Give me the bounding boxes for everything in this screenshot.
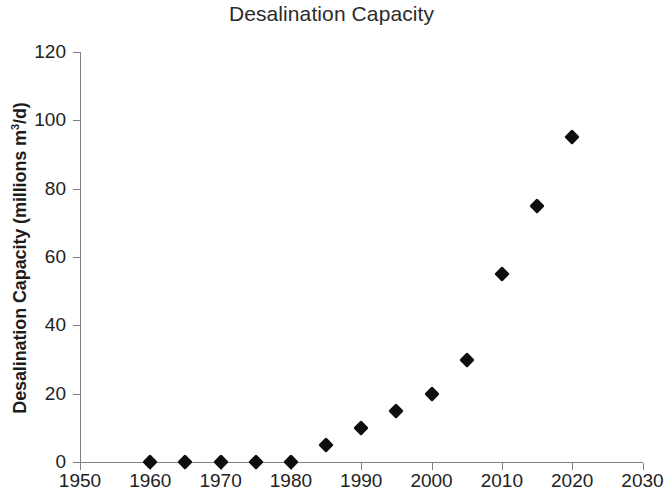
x-axis-tick-label: 1960: [110, 471, 190, 490]
y-axis-tick-label: 20: [20, 384, 66, 403]
x-axis-tick-label: 2010: [462, 471, 542, 490]
chart-title: Desalination Capacity: [0, 2, 663, 26]
y-axis-tick: [73, 325, 80, 326]
y-axis-title-text: Desalination Capacity (millions m: [10, 130, 30, 414]
y-axis-tick-label: 120: [20, 42, 66, 61]
y-axis-title-superscript: 3: [9, 124, 21, 130]
y-axis-tick-label: 60: [20, 247, 66, 266]
y-axis-tick: [73, 189, 80, 190]
x-axis-tick-label: 1970: [181, 471, 261, 490]
y-axis-tick: [73, 120, 80, 121]
x-axis-tick: [572, 463, 573, 470]
x-axis-tick: [80, 463, 81, 470]
y-axis-tick: [73, 462, 80, 463]
y-axis-tick-label: 80: [20, 179, 66, 198]
y-axis-tick: [73, 394, 80, 395]
data-point-marker: [353, 420, 369, 436]
y-axis-tick-label: 100: [20, 110, 66, 129]
x-axis-tick-label: 1990: [321, 471, 401, 490]
x-axis-tick: [291, 463, 292, 470]
data-point-marker: [494, 266, 510, 282]
data-point-marker: [318, 437, 334, 453]
data-point-marker: [424, 386, 440, 402]
y-axis-tick: [73, 257, 80, 258]
data-point-marker: [459, 352, 475, 368]
y-axis-tick-label: 40: [20, 315, 66, 334]
x-axis-tick-label: 1980: [251, 471, 331, 490]
data-point-marker: [529, 198, 545, 214]
x-axis-tick: [150, 463, 151, 470]
x-axis-tick-label: 2020: [532, 471, 612, 490]
x-axis-tick-label: 1950: [40, 471, 120, 490]
y-axis-tick: [73, 52, 80, 53]
x-axis-tick: [361, 463, 362, 470]
x-axis-tick: [502, 463, 503, 470]
data-point-marker: [389, 403, 405, 419]
y-axis-tick-label: 0: [20, 452, 66, 471]
data-point-marker: [564, 130, 580, 146]
x-axis-tick-label: 2030: [603, 471, 668, 490]
y-axis-line: [80, 52, 81, 463]
x-axis-tick: [643, 463, 644, 470]
x-axis-tick-label: 2000: [392, 471, 472, 490]
x-axis-tick: [432, 463, 433, 470]
x-axis-tick: [221, 463, 222, 470]
